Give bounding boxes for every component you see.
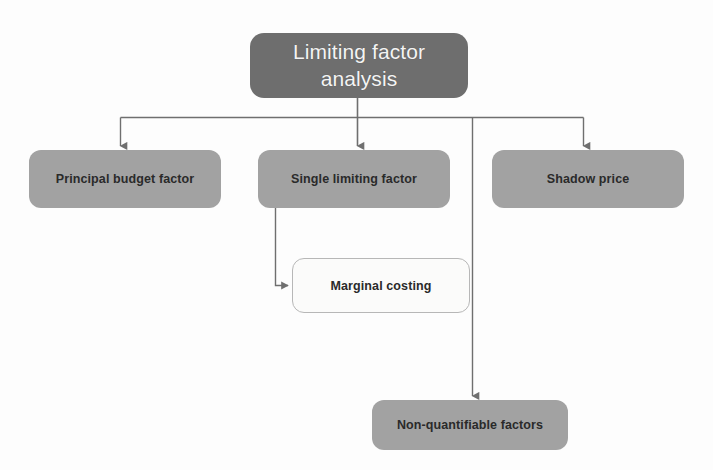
diagram-canvas: Limiting factor analysis Principal budge… <box>0 0 713 470</box>
node-principal-budget-factor[interactable]: Principal budget factor <box>29 150 221 208</box>
node-non-quantifiable-factors[interactable]: Non-quantifiable factors <box>372 400 568 450</box>
node-marginal-costing[interactable]: Marginal costing <box>292 258 470 313</box>
node-label-marginal-costing: Marginal costing <box>321 278 442 294</box>
node-label-non-quantifiable-factors: Non-quantifiable factors <box>387 417 553 433</box>
node-label-limiting-factor-analysis: Limiting factor analysis <box>283 39 435 93</box>
node-single-limiting-factor[interactable]: Single limiting factor <box>258 150 450 208</box>
node-shadow-price[interactable]: Shadow price <box>492 150 684 208</box>
node-label-principal-budget-factor: Principal budget factor <box>46 171 204 187</box>
node-label-shadow-price: Shadow price <box>537 171 639 187</box>
connector-to-marginal-costing <box>276 208 289 286</box>
node-limiting-factor-analysis[interactable]: Limiting factor analysis <box>250 33 468 98</box>
node-label-single-limiting-factor: Single limiting factor <box>281 171 427 187</box>
